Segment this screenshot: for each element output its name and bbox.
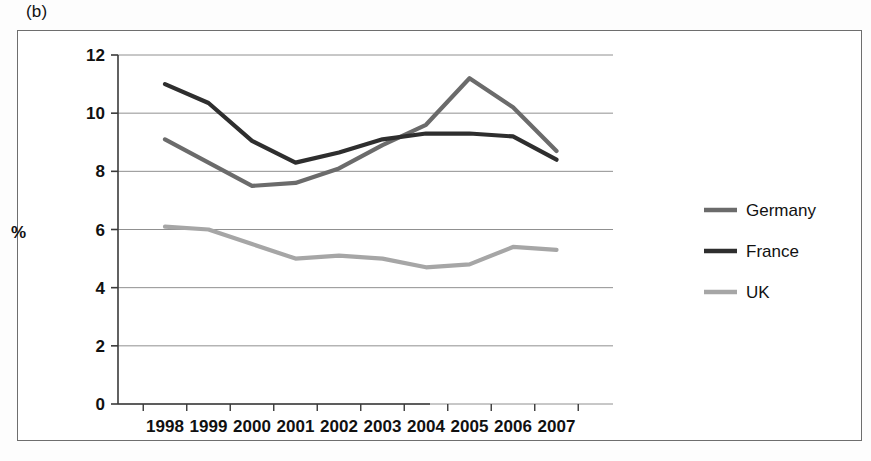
x-tick-label: 1998: [146, 417, 184, 436]
y-tick-label: 10: [86, 104, 105, 123]
y-tick-label: 4: [96, 279, 106, 298]
figure-page: (b) % 024681012 199819992000200120022003…: [0, 0, 871, 461]
x-axis: [118, 404, 578, 411]
x-tick-label: 2004: [407, 417, 445, 436]
y-axis: [111, 55, 118, 404]
y-tick-label: 12: [86, 46, 105, 65]
y-tick-label: 6: [96, 221, 105, 240]
x-tick-labels: 1998199920002001200220032004200520062007: [146, 417, 575, 436]
x-tick-label: 1999: [190, 417, 228, 436]
y-tick-label: 2: [96, 337, 105, 356]
line-chart: 024681012 199819992000200120022003200420…: [17, 30, 862, 441]
x-tick-label: 2001: [277, 417, 315, 436]
legend-label-uk: UK: [746, 283, 770, 302]
x-tick-label: 2007: [538, 417, 576, 436]
data-series-group: [165, 78, 557, 267]
x-tick-label: 2002: [320, 417, 358, 436]
x-tick-label: 2003: [364, 417, 402, 436]
series-line-uk: [165, 227, 557, 268]
x-tick-label: 2005: [451, 417, 489, 436]
y-tick-labels: 024681012: [86, 46, 105, 414]
chart-legend: GermanyFranceUK: [704, 201, 816, 302]
series-line-germany: [165, 78, 557, 186]
legend-label-france: France: [746, 242, 799, 261]
y-tick-label: 8: [96, 162, 105, 181]
y-tick-label: 0: [96, 395, 105, 414]
x-tick-label: 2000: [233, 417, 271, 436]
legend-label-germany: Germany: [746, 201, 816, 220]
panel-label: (b): [26, 2, 47, 22]
x-tick-label: 2006: [494, 417, 532, 436]
